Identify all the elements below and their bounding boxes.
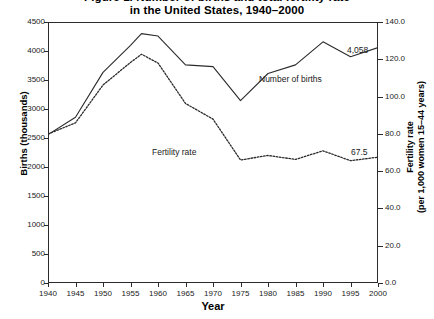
tick-mark — [48, 283, 49, 287]
tick-mark — [378, 246, 383, 247]
x-axis-title: Year — [48, 300, 378, 312]
value-label-fertility-2000: 67.5 — [351, 148, 368, 157]
tick-mark — [351, 283, 352, 287]
x-tick-label-2000: 2000 — [363, 290, 393, 298]
tick-mark — [213, 283, 214, 287]
y-left-tick-label-2000: 2000 — [27, 163, 45, 171]
y-left-tick-label-1000: 1000 — [27, 221, 45, 229]
tick-mark — [378, 171, 383, 172]
x-tick-label-1980: 1980 — [253, 290, 283, 298]
y-left-tick-label-500: 500 — [32, 250, 45, 258]
tick-mark — [378, 134, 383, 135]
tick-mark — [186, 283, 187, 287]
y-right-tick-label-80.0: 80.0 — [385, 130, 401, 138]
tick-mark — [378, 97, 383, 98]
annotation-fertility-rate: Fertility rate — [152, 148, 196, 157]
tick-mark — [378, 283, 379, 287]
y-right-tick-label-120.0: 120.0 — [385, 55, 405, 63]
x-tick-label-1975: 1975 — [226, 290, 256, 298]
x-tick-label-1960: 1960 — [143, 290, 173, 298]
tick-mark — [158, 283, 159, 287]
x-tick-label-1995: 1995 — [336, 290, 366, 298]
y-right-tick-label-0.0: 0.0 — [385, 279, 396, 287]
tick-mark — [296, 283, 297, 287]
y-left-tick-label-1500: 1500 — [27, 192, 45, 200]
y-right-tick-label-60.0: 60.0 — [385, 167, 401, 175]
tick-mark — [323, 283, 324, 287]
tick-mark — [378, 22, 383, 23]
y-left-tick-label-0: 0 — [41, 279, 45, 287]
tick-mark — [378, 208, 383, 209]
y-left-tick-label-3500: 3500 — [27, 76, 45, 84]
tick-mark — [76, 283, 77, 287]
tick-mark — [378, 59, 383, 60]
x-tick-label-1940: 1940 — [33, 290, 63, 298]
tick-mark — [241, 283, 242, 287]
y-right-tick-label-100.0: 100.0 — [385, 93, 405, 101]
x-tick-label-1950: 1950 — [88, 290, 118, 298]
y-left-tick-label-4500: 4500 — [27, 18, 45, 26]
y-axis-right-title-line-2: (per 1,000 women 15–44 years) — [416, 72, 427, 222]
x-tick-label-1970: 1970 — [198, 290, 228, 298]
x-tick-label-1985: 1985 — [281, 290, 311, 298]
x-tick-label-1955: 1955 — [116, 290, 146, 298]
y-axis-left-title: Births (thousands) — [18, 64, 29, 204]
tick-mark — [103, 283, 104, 287]
y-axis-right-title-line-1: Fertility rate — [405, 72, 416, 222]
y-axis-right-title: Fertility rate (per 1,000 women 15–44 ye… — [405, 72, 427, 222]
chart-title-line-2: in the United States, 1940–2000 — [0, 4, 434, 17]
y-right-tick-label-40.0: 40.0 — [385, 204, 401, 212]
y-left-tick-label-4000: 4000 — [27, 47, 45, 55]
series-canvas — [48, 22, 378, 283]
plot-area — [48, 22, 378, 283]
tick-mark — [131, 283, 132, 287]
x-tick-label-1965: 1965 — [171, 290, 201, 298]
y-right-tick-label-140.0: 140.0 — [385, 18, 405, 26]
chart-title: Figure 1. Number of births and total fer… — [0, 0, 434, 17]
series-line-fertility-rate — [48, 54, 378, 160]
y-left-tick-label-2500: 2500 — [27, 134, 45, 142]
y-left-tick-label-3000: 3000 — [27, 105, 45, 113]
x-tick-label-1990: 1990 — [308, 290, 338, 298]
x-tick-label-1945: 1945 — [61, 290, 91, 298]
tick-mark — [268, 283, 269, 287]
y-right-tick-label-20.0: 20.0 — [385, 242, 401, 250]
value-label-births-2000: 4,058 — [347, 46, 368, 55]
annotation-number-of-births: Number of births — [259, 75, 322, 84]
figure-births-fertility-chart: Figure 1. Number of births and total fer… — [0, 0, 434, 319]
